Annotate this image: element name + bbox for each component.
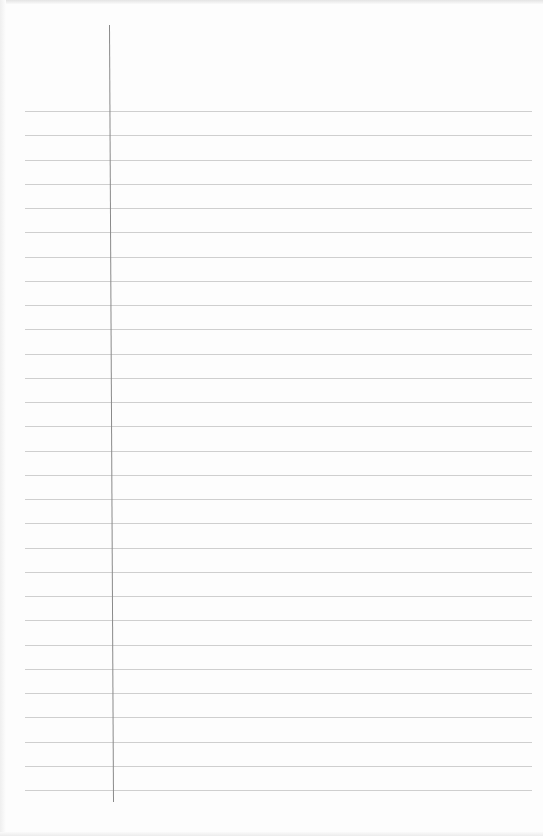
ruled-line — [25, 499, 532, 500]
ruled-line — [25, 451, 532, 452]
ruled-line — [25, 669, 532, 670]
ruled-line — [25, 257, 532, 258]
paper-top-edge — [0, 0, 543, 4]
ruled-line — [25, 232, 532, 233]
ruled-line — [25, 742, 532, 743]
ruled-line — [25, 281, 532, 282]
ruled-line — [25, 790, 532, 791]
ruled-line — [25, 354, 532, 355]
ruled-line — [25, 208, 532, 209]
ruled-line — [25, 111, 532, 112]
ruled-line — [25, 596, 532, 597]
ruled-line — [25, 548, 532, 549]
ruled-line — [25, 620, 532, 621]
ruled-line — [25, 135, 532, 136]
ruled-line — [25, 426, 532, 427]
ruled-line — [25, 523, 532, 524]
ruled-line — [25, 693, 532, 694]
ruled-line — [25, 329, 532, 330]
ruled-line — [25, 402, 532, 403]
ruled-line — [25, 378, 532, 379]
paper-left-edge — [0, 0, 6, 836]
ruled-line — [25, 572, 532, 573]
ruled-line — [25, 160, 532, 161]
paper-bottom-edge — [0, 832, 543, 836]
ruled-line — [25, 305, 532, 306]
margin-line — [109, 25, 114, 802]
ruled-line — [25, 766, 532, 767]
ruled-line — [25, 645, 532, 646]
ruled-line — [25, 717, 532, 718]
ruled-line — [25, 475, 532, 476]
ruled-line — [25, 184, 532, 185]
